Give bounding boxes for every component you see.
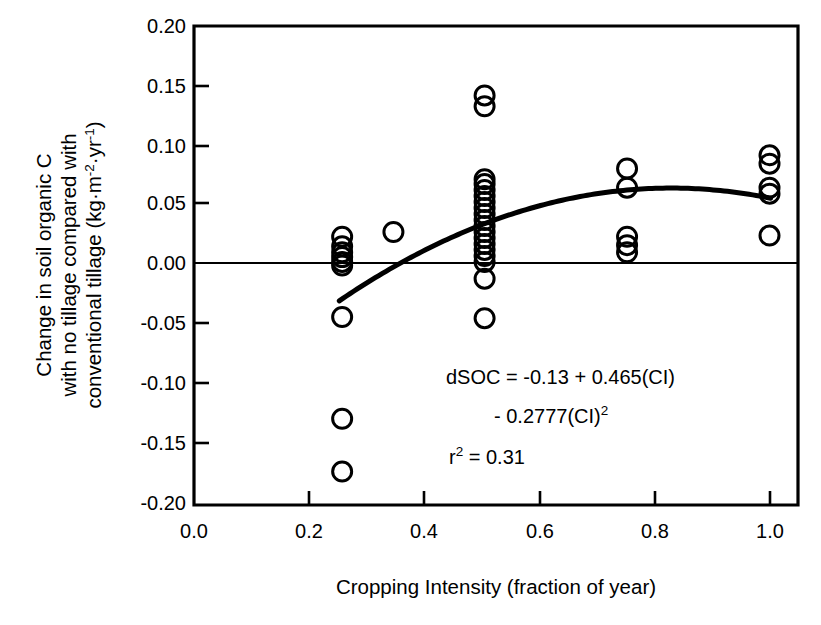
y-tick-label: -0.15 xyxy=(140,432,186,454)
plot-border xyxy=(194,26,798,505)
axes-frame xyxy=(194,26,798,505)
x-tick-label: 0.4 xyxy=(410,520,438,542)
y-axis-title-line3: conventional tillage (kg·m-2·yr-1) xyxy=(82,121,105,408)
equation-line-2-text: - 0.2777(CI) xyxy=(494,405,601,427)
y-tick-label: 0.10 xyxy=(147,135,186,157)
data-point xyxy=(333,409,352,428)
y-tick-label: 0.15 xyxy=(147,75,186,97)
y-tick-label: -0.10 xyxy=(140,372,186,394)
y-axis-title-line2: with no tillage compared with xyxy=(57,133,80,397)
chart-svg: 0.20 0.15 0.10 0.05 0.00 -0.05 -0.10 -0.… xyxy=(0,0,821,625)
x-tick-label: 0.2 xyxy=(295,520,323,542)
r-squared-value: = 0.31 xyxy=(463,446,525,468)
y-axis-title-line3-b: ·yr xyxy=(82,140,105,164)
x-tick-label: 0.8 xyxy=(641,520,669,542)
y-axis-title-line1: Change in soil organic C xyxy=(32,153,55,377)
data-point xyxy=(760,226,779,245)
y-tick-labels: 0.20 0.15 0.10 0.05 0.00 -0.05 -0.10 -0.… xyxy=(140,15,186,514)
data-point xyxy=(475,309,494,328)
data-point xyxy=(333,462,352,481)
equation-line-2-exponent: 2 xyxy=(601,403,609,418)
x-axis-ticks xyxy=(309,491,770,505)
y-axis-ticks xyxy=(194,86,209,443)
y-tick-label: -0.05 xyxy=(140,312,186,334)
x-tick-label: 1.0 xyxy=(756,520,784,542)
y-axis-title-line3-c: ) xyxy=(82,121,105,128)
equation-line-3: r2 = 0.31 xyxy=(449,444,525,468)
data-point xyxy=(618,159,637,178)
y-axis-title-line3-a: conventional tillage (kg·m xyxy=(82,176,105,408)
r-squared-exponent: 2 xyxy=(456,444,464,459)
regression-curve xyxy=(339,188,770,301)
y-axis-title: Change in soil organic C with no tillage… xyxy=(32,121,105,408)
data-point xyxy=(384,222,403,241)
y-axis-title-line3-sup1: -2 xyxy=(82,164,97,176)
x-tick-label: 0.6 xyxy=(526,520,554,542)
x-axis-title: Cropping Intensity (fraction of year) xyxy=(336,575,656,598)
y-tick-label: -0.20 xyxy=(140,492,186,514)
y-tick-label: 0.20 xyxy=(147,15,186,37)
equation-line-2: - 0.2777(CI)2 xyxy=(494,403,608,427)
data-point xyxy=(333,307,352,326)
y-tick-label: 0.05 xyxy=(147,192,186,214)
scatter-plot-figure: 0.20 0.15 0.10 0.05 0.00 -0.05 -0.10 -0.… xyxy=(0,0,821,625)
equation-annotation: dSOC = -0.13 + 0.465(CI) - 0.2777(CI)2 r… xyxy=(446,366,675,468)
y-axis-title-line3-sup2: -1 xyxy=(82,128,97,140)
y-tick-label: 0.00 xyxy=(147,252,186,274)
equation-line-1: dSOC = -0.13 + 0.465(CI) xyxy=(446,366,675,388)
x-tick-label: 0.0 xyxy=(180,520,208,542)
x-tick-labels: 0.0 0.2 0.4 0.6 0.8 1.0 xyxy=(180,520,784,542)
